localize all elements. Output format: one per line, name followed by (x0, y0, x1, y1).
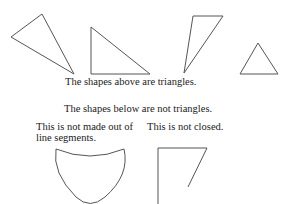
caption-curved-line2: line segments. (36, 132, 96, 144)
triangle-2 (91, 27, 150, 74)
triangle-3 (184, 16, 223, 73)
open-shape (158, 148, 207, 204)
curved-shape (55, 149, 125, 204)
caption-triangles: The shapes above are triangles. (65, 76, 197, 88)
triangle-1 (11, 14, 74, 74)
triangle-4 (240, 43, 278, 74)
caption-open: This is not closed. (147, 121, 223, 133)
caption-not-triangles: The shapes below are not triangles. (64, 103, 212, 115)
figure (0, 0, 295, 204)
